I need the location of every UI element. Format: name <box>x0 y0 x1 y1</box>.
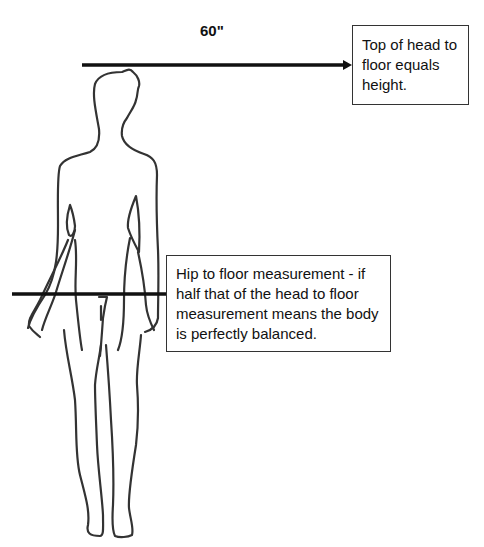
arrow-head-icon <box>343 60 352 70</box>
height-measurement-label: 60" <box>200 22 224 39</box>
female-silhouette-icon <box>28 70 158 537</box>
hip-callout-box: Hip to floor measurement - if half that … <box>166 255 391 352</box>
height-callout-text: Top of head to floor equals height. <box>362 36 457 93</box>
hip-callout-text: Hip to floor measurement - if half that … <box>176 265 379 342</box>
height-callout-box: Top of head to floor equals height. <box>352 25 469 105</box>
